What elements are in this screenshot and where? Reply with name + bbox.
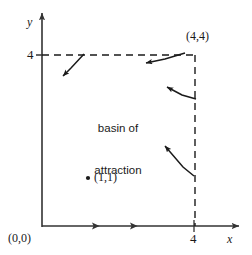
y-axis xyxy=(36,13,42,227)
y-tick-label-4: 4 xyxy=(27,48,34,61)
arrow-right-upper xyxy=(167,87,196,99)
y-axis-label: y xyxy=(27,16,32,28)
x-tick-label-4: 4 xyxy=(190,232,197,245)
x-axis-label: x xyxy=(227,233,232,245)
figure-canvas: y x 4 4 (0,0) (4,4) (1,1) basin of attra… xyxy=(0,0,252,255)
arrow-top-left xyxy=(63,54,84,76)
basin-of-attraction-label: basin of attraction xyxy=(68,93,168,205)
x-axis xyxy=(42,220,239,232)
basin-label-line-1: basin of xyxy=(68,121,168,135)
corner-point-label: (4,4) xyxy=(186,30,209,42)
arrow-right-lower xyxy=(165,146,194,176)
basin-label-line-2: attraction xyxy=(68,163,168,177)
origin-label: (0,0) xyxy=(8,232,31,244)
